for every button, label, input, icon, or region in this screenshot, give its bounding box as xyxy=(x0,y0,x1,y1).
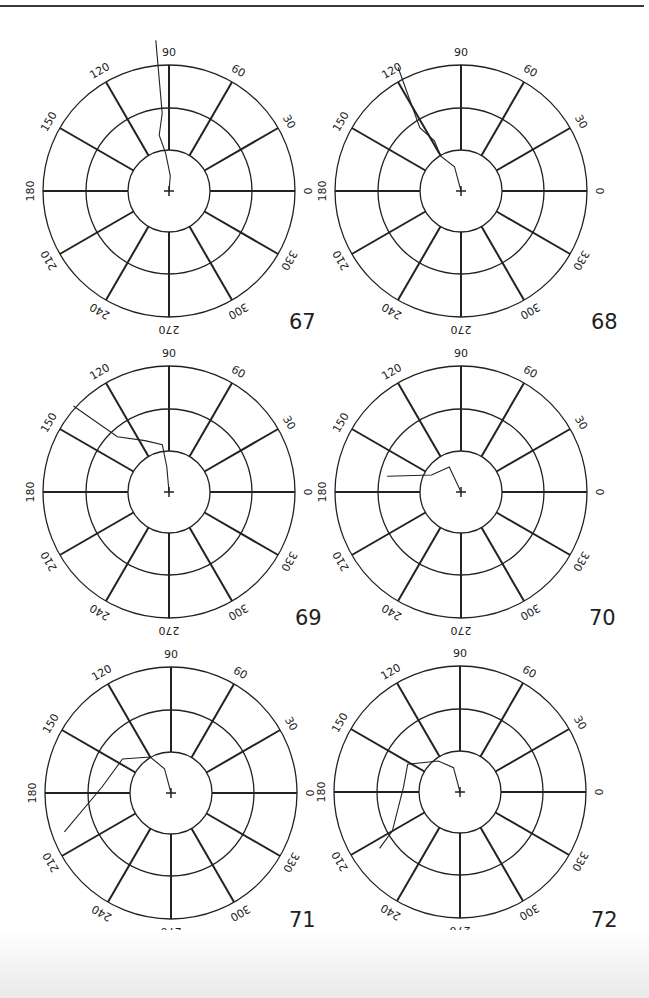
figure-number-68: 68 xyxy=(591,310,618,334)
spoke-60 xyxy=(481,683,524,757)
figure-number-67: 67 xyxy=(289,310,316,334)
spoke-330 xyxy=(496,813,570,856)
angle-label-90: 90 xyxy=(453,647,467,660)
angle-label-210: 210 xyxy=(329,849,351,874)
polar-grid: 0306090120150180210240270300330 xyxy=(0,0,649,998)
figure-number-71: 71 xyxy=(289,908,316,932)
polar-chart-72: 0306090120150180210240270300330 xyxy=(0,0,320,300)
angle-label-330: 330 xyxy=(569,849,591,874)
angle-label-60: 60 xyxy=(520,663,539,681)
figure-number-69: 69 xyxy=(295,606,322,630)
angle-label-0: 0 xyxy=(592,789,605,796)
angle-label-150: 150 xyxy=(329,710,351,735)
angle-label-240: 240 xyxy=(378,901,403,923)
spoke-210 xyxy=(351,813,425,856)
angle-label-30: 30 xyxy=(571,713,589,732)
spoke-300 xyxy=(481,828,524,902)
figure-number-72: 72 xyxy=(591,908,618,932)
spoke-240 xyxy=(397,828,440,902)
angle-label-120: 120 xyxy=(378,661,403,683)
figure-number-70: 70 xyxy=(589,606,616,630)
angle-label-180: 180 xyxy=(315,782,328,803)
spoke-150 xyxy=(351,729,425,772)
spoke-30 xyxy=(496,729,570,772)
page-bottom-shadow xyxy=(0,930,649,998)
trajectory-track xyxy=(380,761,461,848)
angle-label-300: 300 xyxy=(517,901,542,923)
spoke-120 xyxy=(397,683,440,757)
